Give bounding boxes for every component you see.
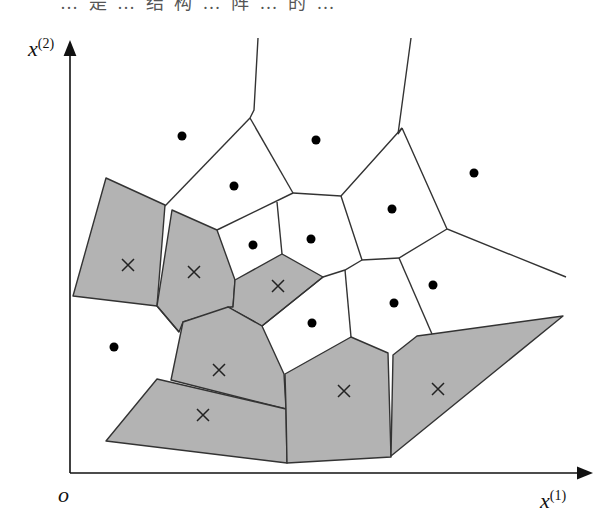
cell-edge — [165, 118, 250, 206]
cell-edge — [250, 118, 293, 193]
cell-edge — [250, 38, 258, 118]
y-axis-label: x(2) — [28, 36, 54, 62]
dot-point — [178, 132, 187, 141]
x-axis-label: x(1) — [540, 488, 566, 514]
cell-edge — [398, 38, 411, 134]
dot-points — [110, 132, 479, 352]
cell-edge — [217, 193, 293, 230]
dot-point — [390, 299, 399, 308]
cell-edge — [399, 258, 432, 334]
cell-edge — [293, 128, 402, 196]
dot-point — [230, 182, 239, 191]
origin-label: o — [58, 482, 69, 508]
cell-edge — [323, 260, 362, 277]
gray-cell — [391, 316, 563, 456]
dot-point — [312, 136, 321, 145]
dot-point — [307, 235, 316, 244]
dot-point — [249, 241, 258, 250]
dot-point — [470, 169, 479, 178]
gray-cell — [73, 178, 165, 306]
class-x-regions — [73, 178, 563, 463]
gray-cell — [285, 337, 391, 463]
dot-point — [308, 319, 317, 328]
cell-edge — [345, 270, 351, 337]
cell-edge — [277, 202, 282, 254]
voronoi-diagram — [0, 0, 597, 527]
cell-edge — [402, 128, 566, 277]
dot-point — [110, 343, 119, 352]
dot-point — [388, 205, 397, 214]
dot-point — [429, 281, 438, 290]
